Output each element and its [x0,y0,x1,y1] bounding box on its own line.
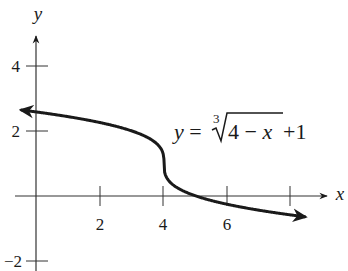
x-axis-label: x [335,183,345,204]
y-ticks [26,66,48,261]
radicand-variable: x [261,119,272,144]
equation-y: y [172,119,184,144]
equation-equals: = [184,119,202,144]
equation-tail: +1 [283,119,306,144]
function-graph: 2 4 6 4 2 −2 y x y = 3 4 − x +1 [0,0,348,271]
y-axis-label: y [32,3,43,24]
svg-text:4 − x: 4 − x [228,119,272,144]
y-tick-label-4: 4 [12,57,21,76]
radicand-number: 4 − [228,119,262,144]
x-tick-label-4: 4 [159,215,168,234]
y-tick-label-2: 2 [12,122,21,141]
x-tick-label-6: 6 [223,215,232,234]
y-tick-label-neg2: −2 [4,252,22,271]
equation-annotation: y = 3 4 − x +1 [172,111,306,144]
svg-text:y =: y = [172,119,202,144]
x-tick-label-2: 2 [96,215,105,234]
radical-index: 3 [213,111,220,126]
